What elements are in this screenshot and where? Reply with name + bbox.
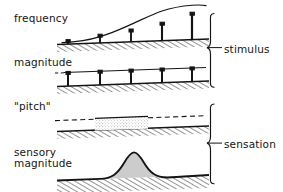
frequency-envelope-curve xyxy=(62,5,206,43)
panel-magnitude xyxy=(50,67,216,100)
magnitude-envelope-line xyxy=(64,67,206,72)
panel-pitch xyxy=(50,116,216,145)
frequency-bars xyxy=(66,12,194,44)
diagram-artwork xyxy=(0,0,283,192)
pitch-dashed-right xyxy=(148,116,206,118)
panel-frequency xyxy=(50,5,216,58)
curly-brace-icon-sensation xyxy=(207,104,214,184)
pitch-dashed-left xyxy=(55,119,95,120)
curly-brace-icon-stimulus xyxy=(207,14,214,88)
panel-sensory-magnitude xyxy=(50,152,216,192)
figure-root: frequency magnitude "pitch" sensory magn… xyxy=(0,0,283,192)
